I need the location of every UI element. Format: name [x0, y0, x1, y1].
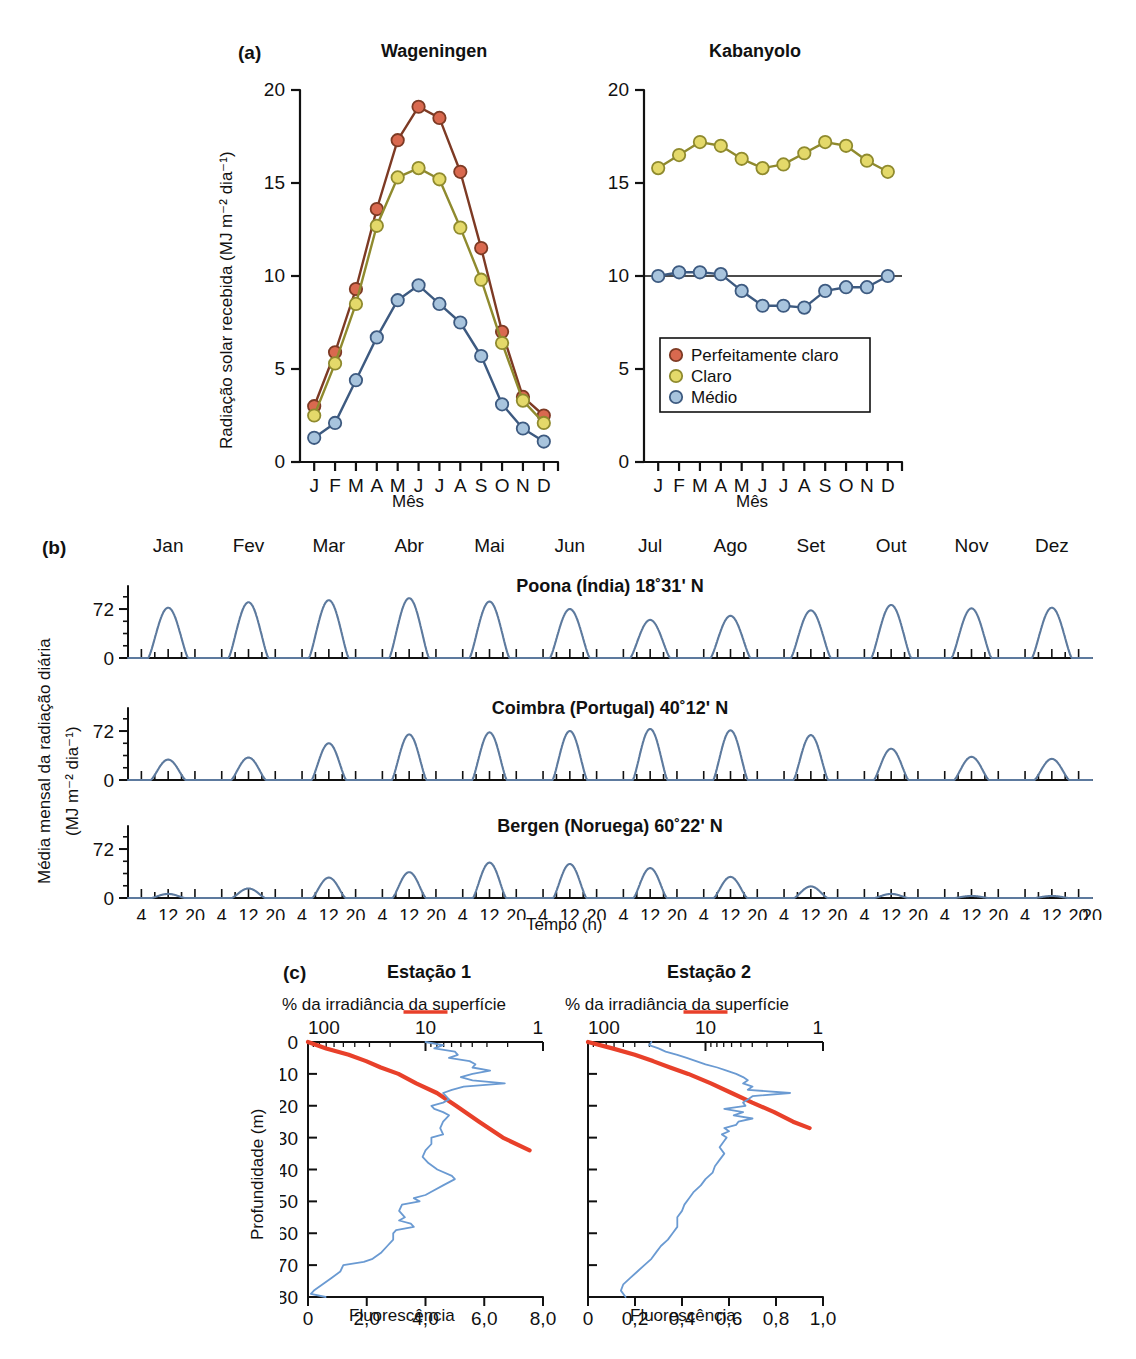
data-point: [861, 154, 873, 166]
data-point: [308, 409, 320, 421]
data-point: [329, 417, 341, 429]
x-tick-label: D: [881, 475, 895, 496]
panel-c-chart-1-bottom-axis-label: Fluorescência: [349, 1306, 455, 1326]
bottom-x-tick-label: 0: [583, 1308, 594, 1329]
y-tick-label: 72: [93, 839, 114, 860]
top-x-tick-label: 10: [695, 1017, 716, 1038]
data-point: [391, 294, 403, 306]
hour-tick-label: 20: [265, 906, 285, 920]
hour-tick-label: 4: [297, 906, 307, 920]
hour-tick-label: 20: [185, 906, 205, 920]
data-point: [308, 432, 320, 444]
data-point: [475, 350, 487, 362]
y-tick-label: 5: [274, 358, 285, 379]
x-tick-label: M: [348, 475, 364, 496]
y-tick-label: 20: [264, 79, 285, 100]
data-point: [475, 274, 487, 286]
x-tick-label: O: [495, 475, 510, 496]
data-point: [371, 331, 383, 343]
data-point: [735, 153, 747, 165]
data-point: [819, 285, 831, 297]
axis-line: [128, 586, 1092, 658]
x-tick-label: F: [329, 475, 341, 496]
hour-tick-label: 12: [720, 906, 740, 920]
panel-b-chart-3: Bergen (Noruega) 60˚22' N720412204122041…: [93, 816, 1102, 920]
series-line-claro: [658, 142, 888, 172]
depth-tick-label: 40: [280, 1160, 298, 1181]
data-point: [861, 281, 873, 293]
x-tick-label: J: [309, 475, 319, 496]
data-point: [756, 300, 768, 312]
depth-tick-label: 0: [287, 1032, 298, 1053]
hour-tick-label: 20: [988, 906, 1008, 920]
y-tick-label: 72: [93, 721, 114, 742]
y-tick-label: 0: [618, 451, 629, 472]
panel-b-chart-title: Poona (Índia) 18˚31' N: [516, 575, 703, 596]
hour-tick-label: 20: [667, 906, 687, 920]
hour-tick-label: 12: [881, 906, 901, 920]
panel-c-tag: (c): [283, 962, 306, 984]
top-x-tick-label: 1: [532, 1017, 543, 1038]
data-point: [694, 136, 706, 148]
y-tick-label: 20: [608, 79, 629, 100]
panel-b-month-label: Ago: [714, 535, 748, 556]
panel-b-tag: (b): [42, 537, 66, 559]
data-point: [496, 337, 508, 349]
series-line-médio: [658, 272, 888, 307]
top-x-tick-label: 10: [415, 1017, 436, 1038]
panel-b-chart-title: Coimbra (Portugal) 40˚12' N: [492, 698, 728, 718]
data-point: [454, 166, 466, 178]
y-tick-label: 0: [274, 451, 285, 472]
panel-b-month-label: Jan: [153, 535, 184, 556]
hour-tick-label: 20: [747, 906, 767, 920]
y-tick-label: 0: [103, 770, 114, 791]
panel-b-plots: JanFevMarAbrMaiJunJulAgoSetOutNovDezPoon…: [80, 530, 1110, 920]
data-point: [882, 166, 894, 178]
panel-c-chart-2-bottom-axis-label: Fluorescência: [630, 1306, 736, 1326]
bottom-x-tick-label: 6,0: [471, 1308, 497, 1329]
axis-line: [128, 826, 1092, 898]
data-point: [329, 357, 341, 369]
panel-c-plots: 1001010102030405060708002,04,06,08,01001…: [280, 1010, 920, 1340]
y-tick-label: 0: [103, 648, 114, 669]
panel-b-month-label: Jun: [555, 535, 586, 556]
data-point: [412, 101, 424, 113]
data-point: [412, 279, 424, 291]
data-point: [433, 298, 445, 310]
axis-line: [128, 708, 1092, 780]
x-tick-label: J: [653, 475, 663, 496]
data-point: [798, 147, 810, 159]
x-tick-label: S: [819, 475, 832, 496]
panel-b-month-label: Mai: [474, 535, 505, 556]
data-point: [496, 398, 508, 410]
x-tick-label: J: [435, 475, 445, 496]
x-tick-label: S: [475, 475, 488, 496]
panel-b-month-label: Nov: [955, 535, 989, 556]
x-tick-label: A: [454, 475, 467, 496]
data-point: [433, 112, 445, 124]
figure-root: (a) Wageningen Kabanyolo Radiação solar …: [0, 0, 1136, 1359]
data-point: [715, 140, 727, 152]
hour-tick-label: 4: [859, 906, 869, 920]
legend-marker: [670, 370, 682, 382]
depth-tick-label: 70: [280, 1255, 298, 1276]
data-point: [433, 173, 445, 185]
hour-tick-label: 12: [399, 906, 419, 920]
y-tick-label: 15: [608, 172, 629, 193]
bottom-x-tick-label: 8,0: [530, 1308, 556, 1329]
data-point: [756, 162, 768, 174]
bottom-x-tick-label: 0,8: [763, 1308, 789, 1329]
legend-marker: [670, 349, 682, 361]
panel-b-month-label: Set: [797, 535, 826, 556]
data-point: [350, 298, 362, 310]
hour-tick-label: 4: [217, 906, 227, 920]
x-tick-label: M: [692, 475, 708, 496]
y-tick-label: 15: [264, 172, 285, 193]
data-point: [475, 242, 487, 254]
y-tick-label: 10: [608, 265, 629, 286]
panel-a-chart-2-xlabel: Mês: [736, 492, 768, 512]
data-point: [840, 281, 852, 293]
hour-tick-label: 12: [158, 906, 178, 920]
y-tick-label: 10: [264, 265, 285, 286]
data-point: [777, 158, 789, 170]
